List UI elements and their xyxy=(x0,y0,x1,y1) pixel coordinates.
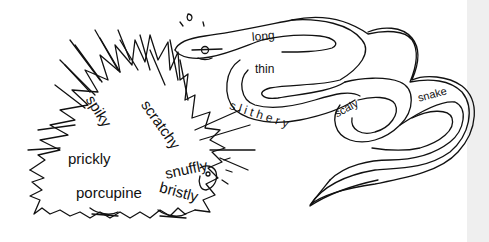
illustration-drawing xyxy=(0,0,489,242)
word-porcupine: porcupine xyxy=(76,184,142,201)
word-prickly: prickly xyxy=(68,150,111,167)
snake-drawing xyxy=(175,14,474,206)
word-thin: thin xyxy=(255,62,274,76)
word-long: long xyxy=(251,28,275,44)
